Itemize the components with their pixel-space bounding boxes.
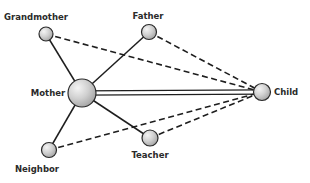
label-father: Father [132,11,164,21]
node-grandmother [39,27,53,41]
label-grandmother: Grandmother [4,12,69,22]
label-child: Child [274,87,298,97]
label-mother: Mother [31,88,66,98]
node-child [254,84,271,101]
label-teacher: Teacher [131,150,169,160]
node-mother [68,79,96,107]
label-neighbor: Neighbor [15,164,60,174]
family-network-diagram: GrandmotherFatherMotherChildTeacherNeigh… [0,0,310,183]
edge-teacher-child [150,92,262,138]
node-neighbor [42,143,57,158]
edge-mother-child [82,90,262,95]
edge-father-child [149,32,262,92]
node-father [142,25,157,40]
node-teacher [142,130,158,146]
